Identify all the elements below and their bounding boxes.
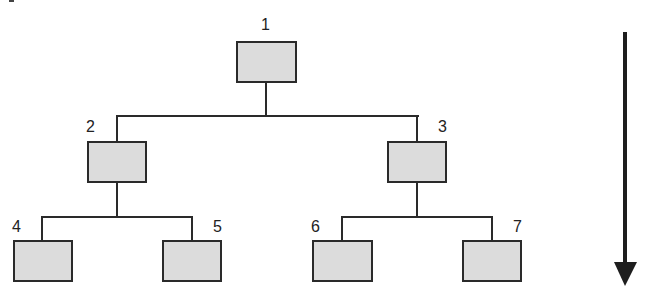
tree-node-4 [13, 240, 73, 282]
node-label-3: 3 [438, 119, 447, 135]
edge-3-down [416, 182, 418, 217]
node-label-1: 1 [261, 17, 270, 33]
edge-to-5 [191, 216, 193, 241]
edge-to-3 [416, 115, 418, 142]
tree-node-5 [162, 240, 222, 282]
scan-artifact [9, 0, 14, 2]
edge-2-down [116, 182, 118, 217]
edge-1-down [265, 82, 267, 117]
node-label-5: 5 [213, 219, 222, 235]
tree-node-6 [312, 240, 373, 282]
node-label-4: 4 [12, 219, 21, 235]
edge-to-7 [491, 216, 493, 241]
down-arrow-icon [610, 30, 642, 290]
node-label-7: 7 [513, 219, 522, 235]
tree-node-2 [87, 141, 147, 183]
edge-to-2 [116, 115, 118, 142]
edge-to-4 [41, 216, 43, 241]
tree-node-3 [387, 141, 447, 183]
node-label-2: 2 [86, 119, 95, 135]
tree-diagram: 1 2 3 4 5 6 7 [0, 0, 647, 295]
tree-node-1 [236, 41, 297, 83]
node-label-6: 6 [311, 219, 320, 235]
edge-level2-right-bar [341, 216, 493, 218]
edge-level2-left-bar [41, 216, 193, 218]
edge-to-6 [341, 216, 343, 241]
edge-level1-bar [116, 115, 419, 117]
tree-node-7 [462, 240, 522, 282]
